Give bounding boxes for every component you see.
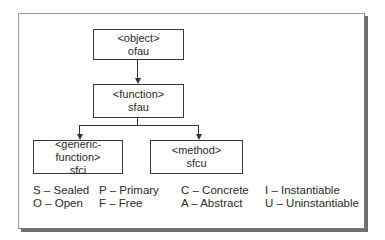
legend-abstract: A – Abstract: [181, 197, 242, 210]
legend-open: O – Open: [33, 197, 83, 210]
legend-free: F – Free: [99, 197, 142, 210]
edge-object-function: [137, 60, 138, 78]
node-object-type: <object>: [117, 32, 159, 45]
node-function: <function> sfau: [93, 84, 184, 118]
node-method-type: <method>: [172, 144, 222, 157]
node-generic-function-code: sfci: [70, 164, 87, 177]
node-method: <method> sfcu: [150, 140, 243, 174]
legend-instantiable: I – Instantiable: [265, 184, 340, 197]
edge-function-method: [198, 125, 199, 134]
edge-branch-horizontal: [79, 125, 199, 126]
legend-concrete: C – Concrete: [181, 184, 249, 197]
node-object-code: ofau: [128, 45, 149, 58]
node-function-code: sfau: [128, 101, 149, 114]
node-generic-function-type: <generic-function>: [34, 138, 122, 164]
legend-primary: P – Primary: [99, 184, 159, 197]
node-object: <object> ofau: [93, 29, 184, 60]
edge-function-generic: [79, 125, 80, 134]
legend-uninstantiable: U – Uninstantiable: [265, 197, 359, 210]
node-method-code: sfcu: [186, 157, 206, 170]
node-function-type: <function>: [113, 88, 164, 101]
node-generic-function: <generic-function> sfci: [33, 140, 123, 174]
legend-sealed: S – Sealed: [33, 184, 89, 197]
